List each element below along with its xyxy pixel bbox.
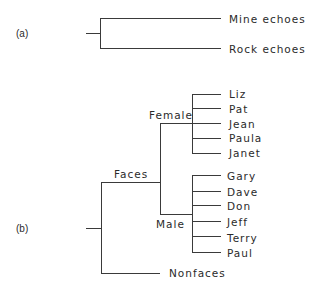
panel-a-label: (a) [16,28,28,39]
leaf-pat: Pat [229,103,248,115]
panel-a: (a) Mine echoes Rock echoes [16,13,306,55]
panel-b-label: (b) [16,223,28,234]
leaf-terry: Terry [226,232,258,244]
leaf-janet: Janet [228,147,261,159]
node-faces-label: Faces [114,168,148,180]
leaf-paul: Paul [227,247,253,259]
leaf-rock-echoes: Rock echoes [229,43,306,55]
node-male-label: Male [156,218,185,230]
leaf-dave: Dave [227,186,258,198]
leaf-mine-echoes: Mine echoes [229,13,306,25]
leaf-liz: Liz [229,88,246,100]
leaf-don: Don [227,200,251,212]
panel-b: (b) Faces Nonfaces Female Liz Pat Jean P… [16,88,262,279]
node-female-label: Female [149,109,193,121]
leaf-paula: Paula [229,132,262,144]
leaf-jeff: Jeff [226,216,248,228]
leaf-nonfaces: Nonfaces [169,267,226,279]
hierarchy-diagram: (a) Mine echoes Rock echoes (b) Faces No… [0,0,315,294]
leaf-jean: Jean [228,118,256,130]
leaf-gary: Gary [227,170,256,182]
